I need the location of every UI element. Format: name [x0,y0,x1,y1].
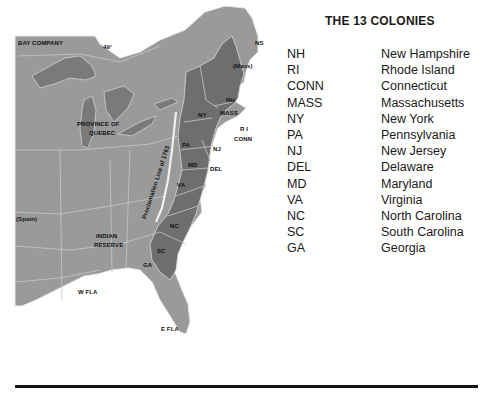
legend-row: RIRhode Island [287,62,487,78]
label-mass: MASS [220,110,238,116]
label-pa: PA [182,142,190,148]
legend-row: MASSMassachusetts [287,95,487,111]
label-49-parallel: 49° [103,44,112,50]
legend-abbr: NC [287,209,381,223]
label-nj: NJ [213,146,221,152]
legend-abbr: RI [287,63,381,77]
legend-abbr: MD [287,177,381,191]
label-e-fla: E FLA [161,326,179,332]
legend-name: Virginia [381,193,487,207]
legend-name: Georgia [381,241,487,255]
legend-abbr: NY [287,112,381,126]
label-province-of-quebec-1: PROVINCE OF [77,121,119,127]
legend-row: GAGeorgia [287,240,487,256]
legend-name: New York [381,112,487,126]
label-nc: NC [170,223,179,229]
label-sc: SC [157,248,166,254]
legend-row: VAVirginia [287,192,487,208]
legend-abbr: PA [287,128,381,142]
label-indian-reserve-2: RESERVE [94,242,123,248]
label-del: DEL [210,166,222,172]
legend-name: Rhode Island [381,63,487,77]
legend-row: DELDelaware [287,159,487,175]
colonies-legend: NHNew Hampshire RIRhode Island CONNConne… [287,46,487,256]
legend-name: Massachusetts [381,96,487,110]
legend-title: THE 13 COLONIES [325,14,435,28]
legend-name: Connecticut [381,79,487,93]
label-bay-company: BAY COMPANY [18,40,63,46]
label-ga: GA [143,262,152,268]
legend-name: New Jersey [381,144,487,158]
label-md: MD [188,162,198,168]
label-spain: (Spain) [16,216,37,222]
legend-abbr: DEL [287,160,381,174]
legend-abbr: NH [287,47,381,61]
legend-row: SCSouth Carolina [287,224,487,240]
label-province-of-quebec-2: QUEBEC [89,130,115,136]
legend-name: Delaware [381,160,487,174]
colonies-map: BAY COMPANY 49° NS (Mass) NH MASS NY R I… [0,0,290,345]
legend-name: North Carolina [381,209,487,223]
label-indian-reserve-1: INDIAN [96,233,117,239]
label-conn: CONN [234,136,252,142]
legend-name: New Hampshire [381,47,487,61]
legend-row: NJNew Jersey [287,143,487,159]
legend-abbr: VA [287,193,381,207]
legend-abbr: NJ [287,144,381,158]
legend-row: NHNew Hampshire [287,46,487,62]
legend-abbr: GA [287,241,381,255]
legend-abbr: CONN [287,79,381,93]
legend-row: PAPennsylvania [287,127,487,143]
legend-name: Pennsylvania [381,128,487,142]
legend-row: CONNConnecticut [287,78,487,94]
label-nh: NH [226,97,235,103]
legend-name: Maryland [381,177,487,191]
legend-row: NYNew York [287,111,487,127]
legend-name: South Carolina [381,225,487,239]
legend-abbr: SC [287,225,381,239]
label-ny: NY [198,112,207,118]
label-maine-mass: (Mass) [233,63,253,69]
legend-abbr: MASS [287,96,381,110]
label-w-fla: W FLA [78,289,98,295]
legend-row: MDMaryland [287,176,487,192]
map-graphic [0,0,290,345]
horizontal-rule [15,385,478,388]
label-va: VA [177,182,185,188]
legend-row: NCNorth Carolina [287,208,487,224]
label-ri: R I [240,126,248,132]
label-ns: NS [255,40,264,46]
